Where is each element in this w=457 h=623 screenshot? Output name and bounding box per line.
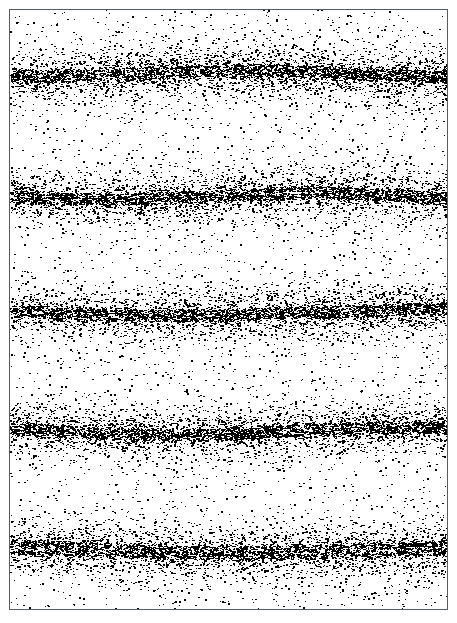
figure-caption xyxy=(9,612,448,623)
plot-frame xyxy=(9,9,448,610)
figure-root xyxy=(0,0,457,623)
scatter-plot-canvas xyxy=(10,10,447,609)
